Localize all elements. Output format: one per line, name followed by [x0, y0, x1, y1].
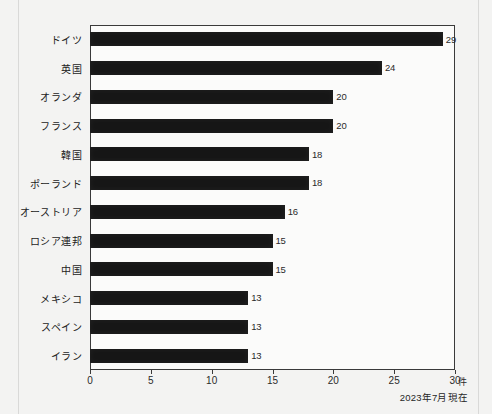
bar-ドイツ — [90, 32, 443, 46]
bar-value-label: 20 — [336, 121, 346, 131]
bar-オーストリア — [90, 205, 285, 219]
bar-value-label: 16 — [288, 207, 298, 217]
bar-value-label: 13 — [251, 351, 261, 361]
x-tick — [151, 370, 152, 374]
category-label-英国: 英国 — [61, 54, 82, 83]
x-tick-label: 0 — [87, 375, 93, 386]
bar-value-label: 18 — [312, 178, 322, 188]
x-tick-label: 10 — [206, 375, 217, 386]
category-label-中国: 中国 — [61, 255, 82, 284]
category-label-イラン: イラン — [51, 341, 82, 370]
bar-value-label: 15 — [276, 236, 286, 246]
category-label-ロシア連邦: ロシア連邦 — [30, 226, 82, 255]
bar-row: 15 — [90, 226, 455, 255]
bar-row: 24 — [90, 54, 455, 83]
bar-フランス — [90, 119, 333, 133]
bar-row: 18 — [90, 169, 455, 198]
x-tick — [212, 370, 213, 374]
bar-row: 13 — [90, 284, 455, 313]
bar-row: 16 — [90, 198, 455, 227]
x-tick-label: 5 — [148, 375, 154, 386]
bar-row: 29 — [90, 25, 455, 54]
category-label-オーストリア: オーストリア — [20, 198, 82, 227]
bar-value-label: 20 — [336, 92, 346, 102]
bar-row: 20 — [90, 111, 455, 140]
x-axis-unit-label: 件 — [458, 375, 467, 388]
bar-value-label: 24 — [385, 63, 395, 73]
bar-value-label: 15 — [276, 265, 286, 275]
category-label-ドイツ: ドイツ — [51, 25, 82, 54]
bar-row: 13 — [90, 341, 455, 370]
chart-footnote: 2023年7月現在 — [400, 390, 468, 404]
x-tick — [273, 370, 274, 374]
bar-スペイン — [90, 320, 248, 334]
bar-row: 20 — [90, 83, 455, 112]
category-label-ポーランド: ポーランド — [30, 169, 82, 198]
x-tick — [333, 370, 334, 374]
bar-row: 15 — [90, 255, 455, 284]
category-label-スペイン: スペイン — [41, 313, 82, 342]
x-tick — [90, 370, 91, 374]
bar-value-label: 13 — [251, 293, 261, 303]
bar-イラン — [90, 349, 248, 363]
x-tick — [394, 370, 395, 374]
category-label-韓国: 韓国 — [61, 140, 82, 169]
x-tick — [455, 370, 456, 374]
bar-value-label: 13 — [251, 322, 261, 332]
x-tick-label: 25 — [389, 375, 400, 386]
bar-row: 18 — [90, 140, 455, 169]
bar-韓国 — [90, 147, 309, 161]
x-tick-label: 20 — [328, 375, 339, 386]
category-label-オランダ: オランダ — [40, 83, 82, 112]
bar-オランダ — [90, 90, 333, 104]
x-tick-label: 15 — [267, 375, 278, 386]
bar-chart: ドイツ英国オランダフランス韓国ポーランドオーストリアロシア連邦中国メキシコスペイ… — [0, 0, 492, 414]
bar-value-label: 18 — [312, 150, 322, 160]
bar-英国 — [90, 61, 382, 75]
bar-value-label: 29 — [446, 35, 456, 45]
category-axis-labels: ドイツ英国オランダフランス韓国ポーランドオーストリアロシア連邦中国メキシコスペイ… — [0, 25, 86, 370]
bar-ポーランド — [90, 176, 309, 190]
bar-series: 292420201818161515131313 — [90, 25, 455, 370]
category-label-メキシコ: メキシコ — [40, 284, 82, 313]
bar-中国 — [90, 262, 273, 276]
x-axis: 051015202530 — [90, 370, 455, 392]
bar-row: 13 — [90, 313, 455, 342]
bar-メキシコ — [90, 291, 248, 305]
bar-ロシア連邦 — [90, 234, 273, 248]
category-label-フランス: フランス — [40, 111, 82, 140]
